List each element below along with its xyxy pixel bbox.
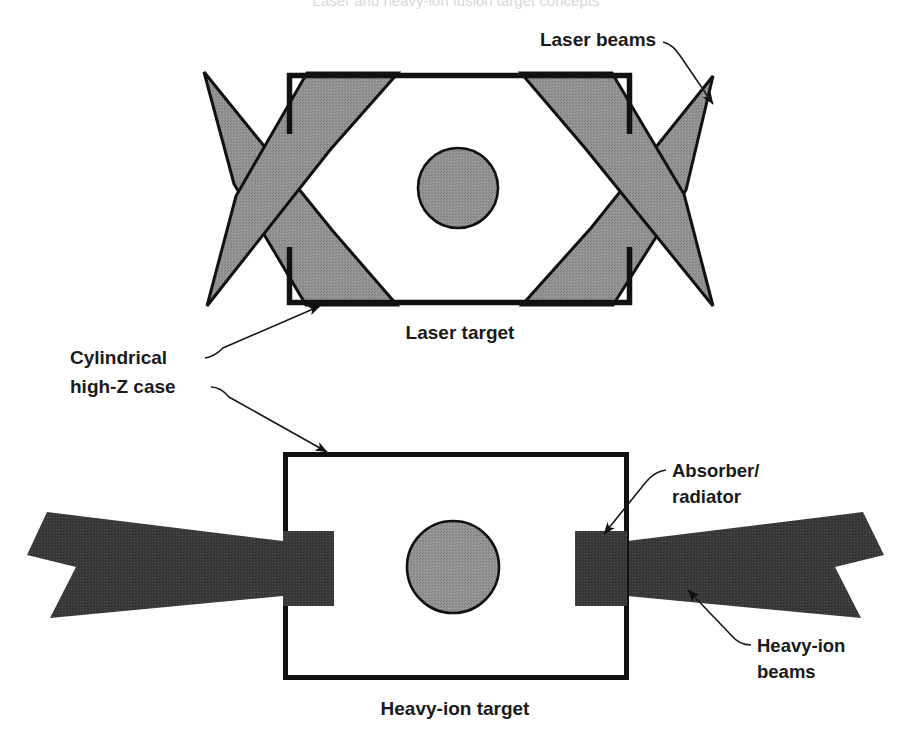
laser-beams-label: Laser beams — [540, 29, 656, 50]
absorber-label-line1: Absorber/ — [672, 460, 759, 481]
heavy-ion-beam-left — [27, 512, 283, 618]
figure-root: Laser and heavy-ion fusion target concep… — [0, 0, 913, 750]
fusion-target-diagram: Laser and heavy-ion fusion target concep… — [0, 0, 913, 750]
absorber-left — [283, 531, 334, 606]
heavy-ion-target-caption: Heavy-ion target — [381, 698, 531, 719]
cropped-figure-title: Laser and heavy-ion fusion target concep… — [313, 0, 600, 9]
absorber-label-line2: radiator — [672, 486, 741, 507]
laser-target-panel: Laser beams Laser target — [204, 29, 713, 343]
absorber-right — [575, 531, 627, 606]
case-leader-lower — [211, 387, 327, 452]
heavy-ion-beam-right — [627, 512, 884, 618]
case-label-line2: high-Z case — [70, 376, 176, 397]
fusion-capsule-lower — [407, 521, 499, 613]
fusion-capsule-upper — [418, 148, 498, 228]
cylindrical-high-z-case-callout: Cylindrical high-Z case — [70, 306, 327, 452]
heavy-ion-beams-label-line1: Heavy-ion — [757, 635, 845, 656]
case-leader-upper — [205, 306, 320, 358]
laser-target-caption: Laser target — [406, 322, 515, 343]
heavy-ion-beams-label-line2: beams — [757, 661, 816, 682]
case-label-line1: Cylindrical — [70, 347, 167, 368]
heavy-ion-target-panel: Absorber/ radiator Heavy-ion beams Heavy… — [27, 455, 884, 720]
